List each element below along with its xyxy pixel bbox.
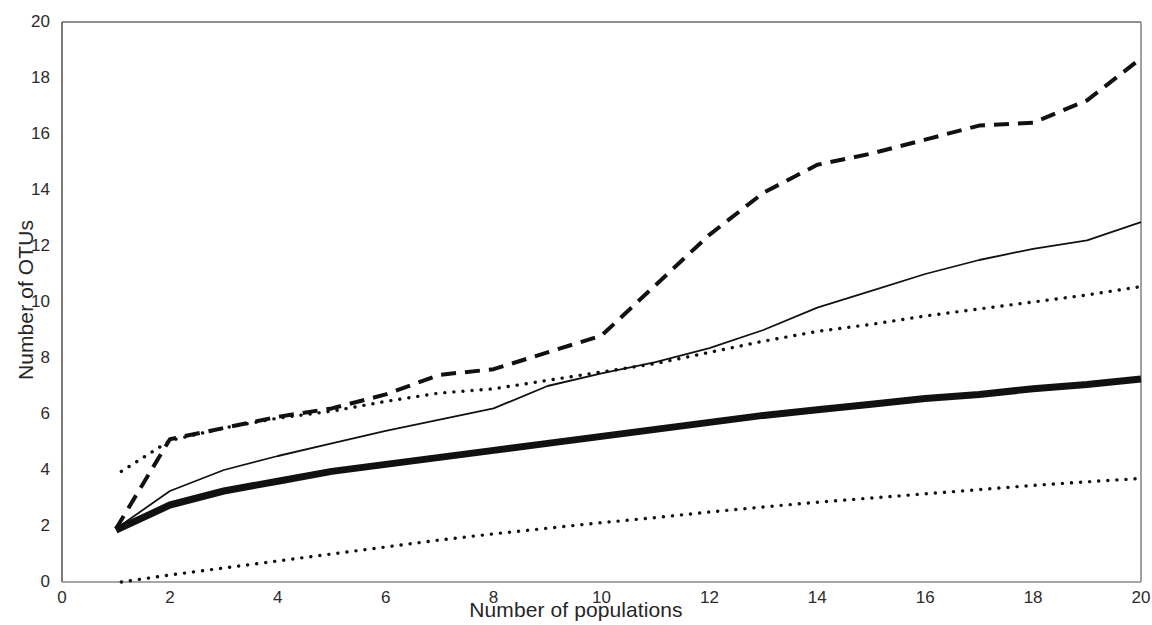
y-tick-label: 18 [10,68,50,88]
y-tick-label: 4 [10,460,50,480]
plot-frame [62,22,1141,582]
plot-canvas [0,0,1152,625]
y-tick-label: 2 [10,516,50,536]
data-series-layer [116,58,1141,582]
chart-figure: 02468101214161820 02468101214161820 Numb… [0,0,1152,625]
x-axis-title: Number of populations [0,598,1152,622]
series-line-lower-dotted-reference [121,478,1141,582]
series-line-upper-dotted-reference [121,287,1141,472]
y-axis-title: Number of OTUs [14,190,38,410]
y-tick-label: 20 [10,12,50,32]
y-tick-label: 16 [10,124,50,144]
series-line-thick-solid-accumulation [116,379,1141,530]
